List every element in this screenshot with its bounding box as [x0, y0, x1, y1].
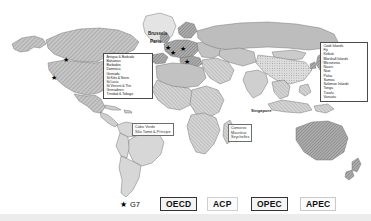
legend-label-acp: ACP: [207, 197, 238, 211]
country-india: [243, 70, 268, 98]
legend-item-acp[interactable]: ACP: [207, 197, 238, 211]
country-alaska: [12, 36, 46, 52]
legend-label-oecd: OECD: [160, 197, 197, 211]
country-korea: [310, 62, 316, 69]
g7-star-marker-canada: ★: [63, 56, 69, 63]
region-scandinavia: [178, 22, 197, 38]
callout-pacific-states: Cook Islands Fiji Kiribati Marshall Isla…: [320, 42, 368, 102]
callout-item: Trinidad & Tobago: [107, 92, 151, 96]
legend-item-opec[interactable]: OPEC: [251, 197, 288, 211]
star-icon: ★: [120, 200, 127, 209]
world-map-figure: ★ ★ ★ ★ ★ ★ ★ Brussels Paris Singapore A…: [0, 0, 371, 221]
country-cuba: [105, 105, 121, 110]
legend-label-g7: G7: [130, 200, 140, 209]
city-label-brussels: Brussels: [148, 31, 167, 37]
country-new-zealand-south: [345, 170, 354, 180]
g7-star-marker-germany: ★: [180, 45, 186, 52]
callout-indian-ocean-islands: Comoros Mauritius Seychelles: [228, 124, 252, 142]
country-australia: [296, 121, 348, 160]
legend-label-opec: OPEC: [251, 197, 288, 211]
map-legend: ★ G7 OECD ACP OPEC APEC: [0, 196, 371, 218]
country-peru-bolivia: [116, 133, 129, 158]
callout-item: São Tomé & Príncipe: [135, 130, 171, 135]
callout-item: Vanuatu: [324, 95, 366, 99]
country-indonesia: [268, 100, 312, 113]
region-central-east-africa: [190, 86, 224, 118]
country-new-zealand: [352, 158, 361, 172]
city-label-paris: Paris: [150, 39, 161, 45]
g7-star-marker-italy: ★: [184, 58, 190, 65]
callout-item: Seychelles: [231, 135, 249, 140]
country-mexico: [74, 94, 105, 113]
region-southern-africa: [187, 113, 220, 154]
callout-atlantic-islands: Cabo Verde São Tomé & Príncipe: [132, 123, 174, 136]
city-label-singapore: Singapore: [251, 108, 271, 113]
callout-caribbean-states: Antigua & Barbuda Bahamas Barbados Domin…: [103, 53, 153, 99]
region-central-america: [100, 112, 118, 127]
country-russia: [197, 22, 338, 50]
island-hispaniola: [124, 110, 132, 113]
country-philippines: [299, 84, 311, 96]
g7-star-marker-france: ★: [170, 49, 176, 56]
legend-item-apec[interactable]: APEC: [300, 197, 336, 211]
legend-label-apec: APEC: [300, 197, 336, 211]
legend-item-oecd[interactable]: OECD: [160, 197, 197, 211]
legend-item-g7[interactable]: ★ G7: [120, 200, 140, 209]
world-map-graphic: [0, 0, 371, 221]
g7-star-marker-usa: ★: [51, 74, 57, 81]
country-png: [314, 104, 334, 113]
